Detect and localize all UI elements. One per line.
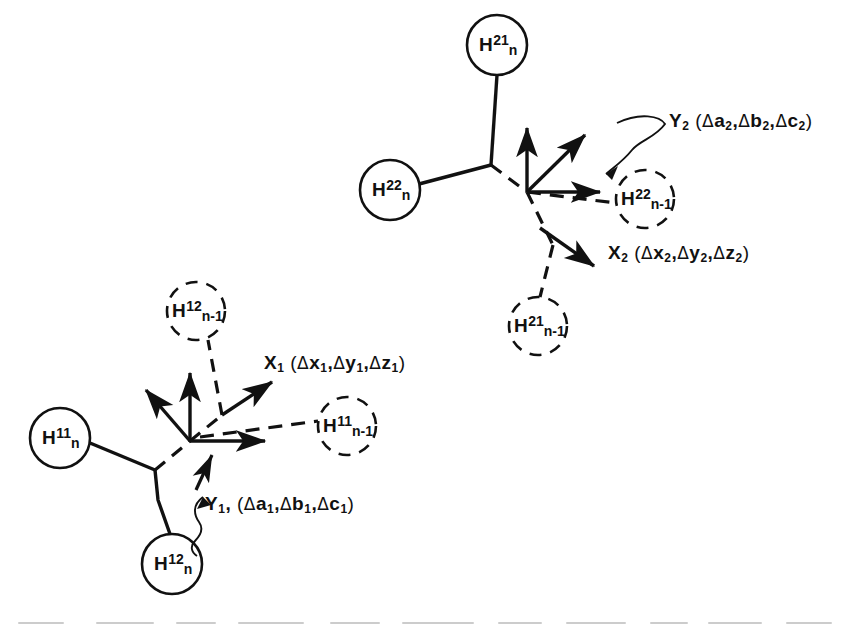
dashed-bond-vertex2-origin2 [491,165,527,192]
node-superscript: 11 [56,425,71,441]
component-index: 2 [799,119,806,133]
dashed-bond-vertex1-origin1 [155,441,190,470]
node-subscript: n [71,435,80,451]
comma: , [225,493,231,514]
component-c: c [788,110,799,131]
node-superscript: 21 [528,313,544,329]
delta-symbol: Δ [713,243,725,263]
component-x: x [653,242,664,263]
node-symbol: H [154,553,168,574]
bond-h11n-to-vertex1 [90,443,155,470]
node-superscript: 22 [386,177,402,193]
delta-symbol: Δ [317,494,329,514]
close-paren: ) [348,493,355,514]
component-c: c [329,493,340,514]
axis-index: 2 [682,119,689,133]
component-y: y [689,242,700,263]
dashed-bond-origin1-h11n1 [200,421,318,437]
axis-index: 2 [621,251,628,265]
node-subscript: n-1 [544,323,565,339]
node-subscript: n [509,42,518,58]
node-symbol: H [372,179,386,200]
node-symbol: H [42,427,56,448]
delta-symbol: Δ [297,353,309,373]
component-a: a [256,493,267,514]
open-paren: ( [237,493,244,514]
component-y: y [345,352,356,373]
delta-symbol: Δ [738,111,750,131]
node-subscript: n-1 [352,423,373,439]
component-index: 1 [340,502,347,516]
squiggle-pointer-y2 [606,116,665,174]
bond-h22n-to-vertex2 [419,165,491,184]
node-superscript: 12 [186,298,202,314]
node-label-h12-n-1: H12n-1 [172,299,223,323]
component-b: b [292,493,304,514]
component-z: z [382,352,392,373]
delta-symbol: Δ [280,494,292,514]
close-paren: ) [743,242,750,263]
dashed-bond-subnode1-h12n1 [208,340,222,415]
bond-h12n-to-vertex1 [155,470,170,534]
node-symbol: H [621,188,635,209]
label-x2: X2 (Δx2,Δy2,Δz2) [608,242,750,265]
component-index: 2 [700,251,707,265]
node-symbol: H [172,300,186,321]
vector-z1-upleft [146,390,190,441]
delta-symbol: Δ [641,243,653,263]
node-label-h22-n: H22n [372,178,410,202]
component-index: 2 [762,119,769,133]
delta-symbol: Δ [244,494,256,514]
component-b: b [750,110,762,131]
node-label-h21-n: H21n [479,33,517,57]
node-subscript: n-1 [651,196,672,212]
component-index: 1 [356,361,363,375]
delta-symbol: Δ [333,353,345,373]
open-paren: ( [695,110,702,131]
label-y2: Y2 (Δa2,Δb2,Δc2) [669,110,813,133]
node-superscript: 21 [493,32,509,48]
node-subscript: n-1 [202,308,223,324]
node-superscript: 12 [168,551,184,567]
node-superscript: 22 [635,186,651,202]
axis-name: Y [669,110,682,131]
vector-y1-pointer [196,455,212,490]
node-superscript: 11 [337,413,352,429]
vector-x2-subnode [540,228,594,266]
delta-symbol: Δ [677,243,689,263]
node-label-h21-n-1: H21n-1 [514,314,565,338]
delta-symbol: Δ [775,111,787,131]
figure-canvas: H21n H22n H22n-1 H21n-1 H11n H12n H12n-1… [0,0,860,628]
node-label-h11-n: H11n [42,426,80,450]
axis-name: X [608,242,621,263]
bond-h21n-to-vertex2 [491,75,497,165]
node-symbol: H [479,34,493,55]
close-paren: ) [806,110,813,131]
label-x1: X1 (Δx1,Δy1,Δz1) [264,352,406,375]
delta-symbol: Δ [702,111,714,131]
vector-x1-subnode [222,382,272,415]
vector-y2-diagonal [527,135,585,192]
node-subscript: n [402,187,411,203]
node-label-h22-n-1: H22n-1 [621,187,672,211]
dashed-bond-subnode2-h21n1 [540,245,553,297]
diagram-vectors [0,0,860,628]
delta-symbol: Δ [369,353,381,373]
label-y1: Y1, (Δa1,Δb1,Δc1) [205,493,354,516]
open-paren: ( [634,242,641,263]
axis-name: Y [205,493,218,514]
component-z: z [726,242,736,263]
node-symbol: H [514,315,528,336]
node-label-h12-n: H12n [154,552,192,576]
axis-index: 1 [277,361,284,375]
component-x: x [309,352,320,373]
dashed-bond-origin2-subnode2 [527,192,553,245]
close-paren: ) [399,352,406,373]
node-label-h11-n-1: H11n-1 [323,414,373,438]
axis-name: X [264,352,277,373]
node-subscript: n [184,561,193,577]
component-index: 1 [392,361,399,375]
node-symbol: H [323,415,337,436]
component-a: a [714,110,725,131]
open-paren: ( [290,352,297,373]
